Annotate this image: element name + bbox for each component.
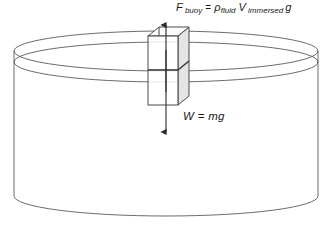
diagram-canvas — [0, 0, 335, 242]
immersed-block — [148, 27, 189, 105]
cylinder-bottom-arc — [14, 196, 318, 216]
buoyancy-diagram: Fbuoy=ρfluidVimmersedg W = mg — [0, 0, 335, 242]
